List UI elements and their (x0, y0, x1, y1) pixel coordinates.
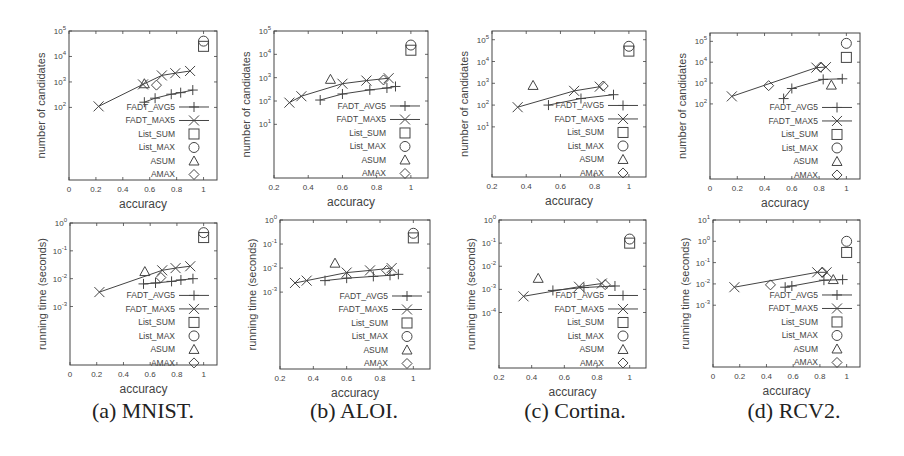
legend-label: List_MAX (568, 141, 605, 151)
legend-label: List_MAX (782, 143, 819, 153)
legend-label: AMAX (362, 168, 386, 178)
triangle-marker-icon (189, 156, 199, 165)
triangle-marker-icon (533, 273, 543, 282)
y-tick-label: 100 (55, 217, 68, 228)
triangle-marker-icon (400, 155, 410, 164)
series-list-max (842, 236, 852, 246)
x-tick-label: 0.2 (90, 185, 102, 194)
x-tick-label: 0.4 (526, 373, 538, 382)
cross-marker-icon (513, 102, 523, 112)
legend-label: List_SUM (781, 317, 818, 327)
legend-label: List_SUM (567, 127, 604, 137)
square-marker-icon (402, 318, 412, 328)
legend-label: FADT_AVG5 (556, 290, 605, 300)
legend-label: FADT_MAX5 (768, 116, 818, 126)
legend-label: List_SUM (138, 129, 175, 139)
plus-marker-icon (342, 273, 352, 283)
caption-cortina: (c) Cortina. (462, 398, 688, 424)
plus-marker-icon (390, 81, 400, 91)
x-tick-label: 0.6 (144, 185, 156, 194)
y-tick-label: 101 (259, 118, 272, 129)
legend-label: ASUM (150, 156, 175, 166)
x-tick-label: 0.8 (814, 372, 826, 381)
plus-marker-icon (400, 101, 410, 111)
y-tick-label: 10-1 (482, 237, 497, 248)
x-tick-label: 0 (68, 370, 73, 379)
circle-marker-icon (618, 141, 628, 151)
diamond-marker-icon (832, 357, 842, 367)
y-tick-label: 104 (259, 48, 272, 59)
circle-marker-icon (625, 234, 635, 244)
y-axis-label: number of candidates (35, 52, 47, 158)
cross-marker-icon (157, 70, 167, 80)
legend: FADT_AVG5FADT_MAX5List_SUMList_MAXASUMAM… (768, 290, 852, 368)
series-amax (156, 273, 166, 283)
legend-label: List_MAX (139, 331, 176, 341)
diamond-marker-icon (189, 169, 199, 179)
circle-marker-icon (618, 331, 628, 341)
plus-marker-icon (832, 290, 842, 300)
x-tick-label: 1 (201, 185, 206, 194)
legend: FADT_AVG5FADT_MAX5List_SUMList_MAXASUMAM… (554, 290, 638, 368)
y-axis-label: running time (seconds) (36, 238, 48, 350)
y-tick-label: 102 (259, 95, 272, 106)
series-asum (330, 258, 340, 267)
plus-marker-icon (176, 275, 186, 285)
legend-label: FADT_AVG5 (340, 291, 389, 301)
x-tick-label: 1 (844, 184, 849, 193)
series-amax (764, 62, 826, 91)
series-asum (325, 74, 335, 83)
plus-marker-icon (315, 95, 325, 105)
series-amax (600, 280, 610, 290)
triangle-marker-icon (528, 80, 538, 89)
y-tick-label: 10-3 (696, 299, 711, 310)
x-tick-label: 0.8 (374, 374, 386, 383)
x-tick-label: 0.6 (559, 373, 571, 382)
y-axis-label: running time (seconds) (465, 238, 477, 350)
legend-label: ASUM (793, 156, 818, 166)
y-tick-label: 104 (477, 56, 490, 67)
y-axis-label: running time (seconds) (679, 238, 691, 350)
caption-mnist: (a) MNIST. (30, 398, 256, 424)
square-marker-icon (841, 52, 851, 62)
square-marker-icon (842, 247, 852, 257)
triangle-marker-icon (402, 345, 412, 354)
y-tick-label: 10-1 (696, 257, 711, 268)
plus-marker-icon (610, 281, 620, 291)
cross-marker-icon (595, 82, 605, 92)
legend-label: FADT_AVG5 (127, 290, 176, 300)
plus-marker-icon (818, 74, 828, 84)
plus-marker-icon (167, 276, 177, 286)
triangle-marker-icon (140, 267, 150, 276)
cross-marker-icon (729, 282, 739, 292)
x-tick-label: 1 (627, 182, 632, 191)
circle-marker-icon (400, 141, 410, 151)
y-tick-label: 10-1 (263, 238, 278, 249)
x-tick-label: 1 (409, 183, 414, 192)
cross-marker-icon (519, 291, 529, 301)
series-list-max (841, 38, 851, 48)
y-tick-label: 101 (698, 214, 711, 225)
y-tick-label: 10-3 (263, 286, 278, 297)
legend-label: AMAX (151, 169, 175, 179)
diamond-marker-icon (618, 358, 628, 368)
y-tick-label: 10-3 (482, 283, 497, 294)
x-tick-label: 1 (201, 370, 206, 379)
legend-label: AMAX (794, 357, 818, 367)
legend-label: AMAX (580, 168, 604, 178)
series-asum (826, 80, 836, 89)
y-tick-label: 105 (477, 34, 490, 45)
y-tick-label: 10-1 (53, 245, 68, 256)
triangle-marker-icon (826, 80, 836, 89)
x-tick-label: 0.4 (303, 183, 315, 192)
legend-label: FADT_AVG5 (127, 102, 176, 112)
y-tick-label: 10-2 (696, 278, 711, 289)
legend-label: ASUM (579, 154, 604, 164)
triangle-marker-icon (618, 344, 628, 353)
legend-label: ASUM (579, 344, 604, 354)
plot-panel-b-bottom: 0.20.40.60.8110-310-210-1100accuracyrunn… (246, 214, 430, 400)
circle-marker-icon (402, 331, 412, 341)
triangle-marker-icon (325, 74, 335, 83)
y-axis-label: number of candidates (676, 53, 688, 159)
y-tick-label: 104 (695, 56, 708, 67)
